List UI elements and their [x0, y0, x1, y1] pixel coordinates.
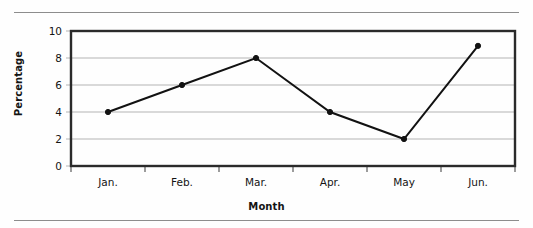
- y-tick-label: 2: [55, 133, 62, 145]
- data-point: [179, 82, 184, 87]
- y-axis-ticks: 0246810: [49, 25, 71, 172]
- data-point: [327, 109, 332, 114]
- y-tick-label: 6: [55, 79, 62, 91]
- data-point: [475, 43, 480, 48]
- plot-frame: [71, 31, 515, 166]
- plot-border: [71, 31, 515, 166]
- y-tick-label: 10: [49, 25, 62, 37]
- x-category-label: Jan.: [97, 176, 118, 188]
- x-category-label: May: [393, 176, 415, 188]
- data-point: [401, 136, 406, 141]
- x-category-label: Jun.: [467, 176, 488, 188]
- x-axis-category-labels: Jan.Feb.Mar.Apr.MayJun.: [97, 176, 488, 188]
- x-category-label: Mar.: [245, 176, 267, 188]
- data-point: [105, 109, 110, 114]
- series-line: [108, 46, 478, 139]
- x-category-label: Apr.: [320, 176, 341, 188]
- y-tick-label: 0: [55, 160, 62, 172]
- figure-container: Percentage Month 0246810 Jan.Feb.Mar.Apr…: [0, 0, 533, 228]
- data-series: [108, 46, 478, 139]
- y-tick-label: 8: [55, 52, 62, 64]
- y-tick-label: 4: [55, 106, 62, 118]
- gridlines: [71, 58, 515, 139]
- x-category-label: Feb.: [171, 176, 193, 188]
- line-chart: 0246810 Jan.Feb.Mar.Apr.MayJun.: [0, 0, 533, 228]
- data-point: [253, 55, 258, 60]
